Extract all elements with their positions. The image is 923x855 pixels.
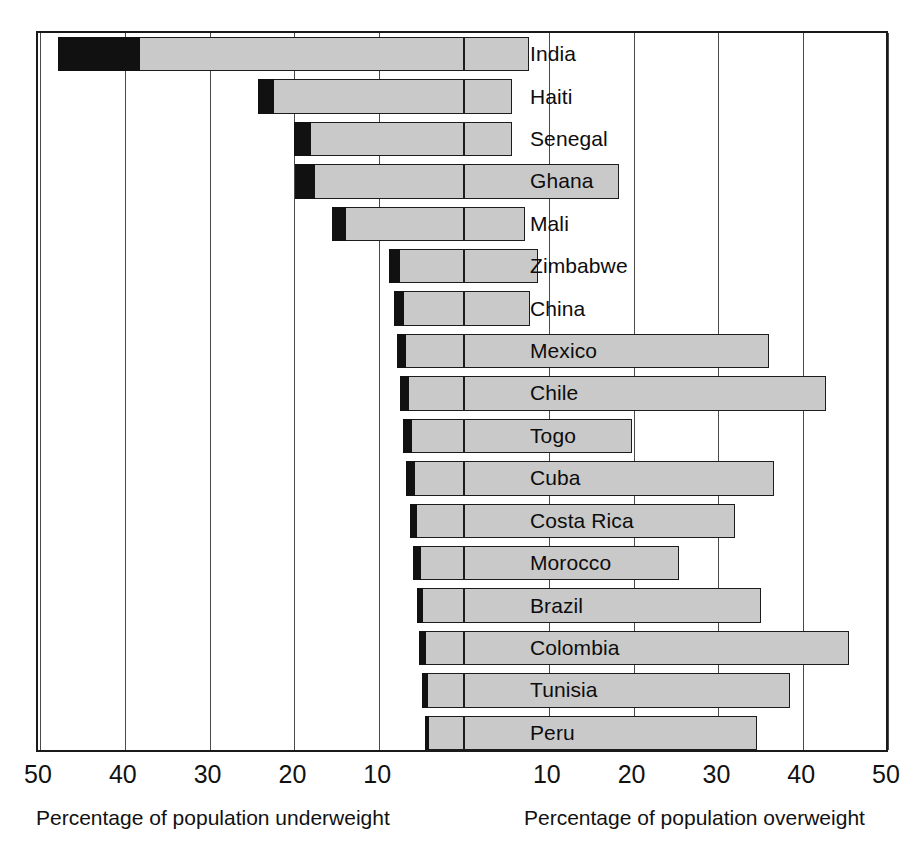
chart-row: Cuba: [38, 457, 886, 499]
bar-severely-underweight: [417, 588, 424, 622]
country-label: Mali: [527, 203, 569, 245]
bar-overweight: [464, 588, 761, 622]
bar-severely-underweight: [400, 376, 409, 410]
bar-severely-underweight: [410, 504, 418, 538]
country-label: Zimbabwe: [527, 245, 628, 287]
bar-underweight: [295, 164, 464, 198]
bar-severely-underweight: [58, 37, 140, 71]
tick-label-right-20: 20: [618, 760, 646, 789]
bar-severely-underweight: [422, 673, 429, 707]
bar-overweight: [464, 79, 512, 113]
tick-label-left-10: 10: [363, 760, 391, 789]
bar-overweight: [464, 419, 632, 453]
bar-underweight: [258, 79, 464, 113]
bar-severely-underweight: [397, 334, 406, 368]
tick-label-left-50: 50: [24, 760, 52, 789]
x-axis-label-right: Percentage of population overweight: [524, 806, 865, 830]
bar-overweight: [464, 249, 538, 283]
bar-overweight: [464, 504, 735, 538]
bar-overweight: [464, 461, 774, 495]
x-axis-label-left: Percentage of population underweight: [36, 806, 390, 830]
chart-row: Costa Rica: [38, 500, 886, 542]
country-label: Haiti: [527, 75, 573, 117]
x-axis-tick-labels: 50403020101020304050: [0, 760, 923, 796]
bar-severely-underweight: [258, 79, 274, 113]
bar-overweight: [464, 291, 530, 325]
bar-severely-underweight: [425, 716, 429, 750]
chart-row: Colombia: [38, 627, 886, 669]
bar-underweight: [397, 334, 464, 368]
chart-row: China: [38, 287, 886, 329]
bar-severely-underweight: [413, 546, 421, 580]
bar-overweight: [464, 631, 849, 665]
tick-label-right-10: 10: [533, 760, 561, 789]
chart-row: Chile: [38, 372, 886, 414]
tick-label-left-30: 30: [194, 760, 222, 789]
bar-overweight: [464, 376, 826, 410]
bar-severely-underweight: [419, 631, 426, 665]
chart-page: IndiaHaitiSenegalGhanaMaliZimbabweChinaM…: [0, 0, 923, 855]
chart-row: Ghana: [38, 160, 886, 202]
bar-overweight: [464, 164, 619, 198]
tick-label-right-50: 50: [872, 760, 900, 789]
chart-row: Morocco: [38, 542, 886, 584]
tick-label-right-30: 30: [702, 760, 730, 789]
bar-overweight: [464, 334, 769, 368]
bar-underweight: [389, 249, 464, 283]
bar-underweight: [400, 376, 464, 410]
bar-severely-underweight: [406, 461, 414, 495]
chart-row: Mali: [38, 203, 886, 245]
bar-overweight: [464, 37, 529, 71]
chart-row: Zimbabwe: [38, 245, 886, 287]
bar-overweight: [464, 716, 757, 750]
chart-row: Tunisia: [38, 669, 886, 711]
tick-label-left-40: 40: [109, 760, 137, 789]
bar-underweight: [332, 207, 464, 241]
chart-row: Peru: [38, 712, 886, 754]
tick-label-right-40: 40: [787, 760, 815, 789]
country-label: China: [527, 287, 585, 329]
bar-underweight: [417, 588, 464, 622]
bar-overweight: [464, 673, 790, 707]
bar-underweight: [406, 461, 464, 495]
bar-underweight: [394, 291, 464, 325]
bar-severely-underweight: [394, 291, 404, 325]
bar-rows: IndiaHaitiSenegalGhanaMaliZimbabweChinaM…: [38, 33, 886, 750]
bar-overweight: [464, 207, 525, 241]
bar-underweight: [294, 122, 464, 156]
chart-row: Mexico: [38, 330, 886, 372]
tick-label-left-20: 20: [278, 760, 306, 789]
chart-row: Togo: [38, 415, 886, 457]
bar-severely-underweight: [389, 249, 399, 283]
chart-row: Brazil: [38, 584, 886, 626]
plot-frame: IndiaHaitiSenegalGhanaMaliZimbabweChinaM…: [36, 31, 888, 752]
chart-row: India: [38, 33, 886, 75]
gridline-right-50: [888, 33, 889, 750]
bar-overweight: [464, 546, 679, 580]
bar-severely-underweight: [295, 164, 315, 198]
bar-underweight: [425, 716, 464, 750]
bar-overweight: [464, 122, 512, 156]
bar-underweight: [410, 504, 464, 538]
bar-severely-underweight: [403, 419, 412, 453]
bar-underweight: [413, 546, 464, 580]
country-label: India: [527, 33, 576, 75]
bar-severely-underweight: [332, 207, 346, 241]
bar-severely-underweight: [294, 122, 311, 156]
chart-row: Senegal: [38, 118, 886, 160]
country-label: Senegal: [527, 118, 608, 160]
chart-row: Haiti: [38, 75, 886, 117]
